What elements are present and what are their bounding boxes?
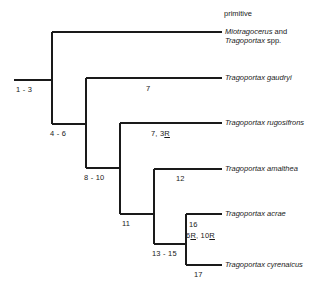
branch-label-acrae-16: 16 bbox=[189, 220, 198, 229]
branch-label-acrae-reversals: 6R, 10R bbox=[186, 231, 215, 240]
node-label-4-6: 4 - 6 bbox=[50, 129, 66, 138]
taxon-label-miotragocerus: Miotragocerus and Tragoportax spp. bbox=[225, 27, 287, 45]
branch-label-cyrenaicus: 17 bbox=[194, 270, 203, 279]
cladogram-figure: primitive Miotragocerus and Tragoportax … bbox=[0, 0, 319, 288]
taxon-name-tragoportax-spp: Tragoportax bbox=[225, 36, 265, 45]
taxon-conjunction: and bbox=[273, 27, 288, 36]
taxon-name-miotragocerus: Miotragocerus bbox=[225, 27, 273, 36]
branch-label-rugosifrons-reversal: R bbox=[164, 129, 170, 138]
branch-label-gaudryi: 7 bbox=[146, 84, 150, 93]
node-label-13-15: 13 - 15 bbox=[152, 249, 177, 258]
taxon-label-amalthea: Tragoportax amalthea bbox=[225, 164, 298, 173]
branch-label-rugosifrons: 7, 3R bbox=[151, 129, 170, 138]
primitive-annotation: primitive bbox=[224, 9, 252, 18]
taxon-spp-suffix: spp. bbox=[265, 36, 281, 45]
reversal-10-marker: R bbox=[209, 231, 215, 240]
branch-label-rugosifrons-text: 7, 3 bbox=[151, 129, 164, 138]
taxon-label-acrae: Tragoportax acrae bbox=[225, 209, 286, 218]
reversal-separator: , 10 bbox=[196, 231, 209, 240]
node-label-root: 1 - 3 bbox=[16, 85, 32, 94]
taxon-label-cyrenaicus: Tragoportax cyrenaicus bbox=[225, 260, 303, 269]
node-label-8-10: 8 - 10 bbox=[84, 173, 104, 182]
taxon-label-rugosifrons: Tragoportax rugosifrons bbox=[225, 118, 304, 127]
node-label-11: 11 bbox=[122, 219, 130, 228]
taxon-label-gaudryi: Tragoportax gaudryi bbox=[225, 73, 292, 82]
branch-label-amalthea: 12 bbox=[176, 174, 185, 183]
